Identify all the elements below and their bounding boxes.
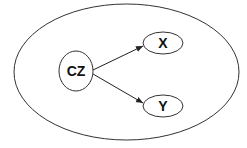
edge-cz-to-y <box>93 74 143 103</box>
edge-cz-to-x <box>93 46 143 70</box>
node-cz-label: CZ <box>67 63 86 79</box>
node-cz: CZ <box>59 51 93 91</box>
node-x: X <box>143 32 183 54</box>
node-x-label: X <box>158 35 168 51</box>
causal-diagram: CZ X Y <box>0 0 247 148</box>
node-y: Y <box>143 95 183 117</box>
outer-boundary-ellipse <box>14 4 239 140</box>
node-y-label: Y <box>158 98 168 114</box>
